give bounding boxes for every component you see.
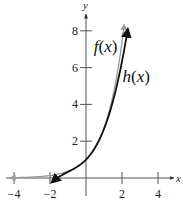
- y-tick-label: 2: [72, 134, 78, 148]
- label-f: f(x): [94, 37, 118, 56]
- y-ticks: 2468: [72, 24, 92, 148]
- y-tick-label: 8: [72, 24, 78, 38]
- y-tick-label: 6: [72, 61, 78, 75]
- y-axis-label: y: [82, 0, 88, 11]
- x-tick-label: 4: [155, 187, 161, 200]
- x-tick-label: −4: [8, 187, 21, 200]
- x-tick-label: 2: [119, 187, 125, 200]
- chart: x y −4−224 2468 f(x)h(x): [0, 0, 183, 200]
- y-tick-label: 4: [72, 97, 78, 111]
- label-h: h(x): [123, 67, 150, 86]
- x-axis-label: x: [175, 172, 181, 184]
- x-ticks: −4−224: [8, 172, 161, 200]
- x-tick-label: −2: [44, 187, 57, 200]
